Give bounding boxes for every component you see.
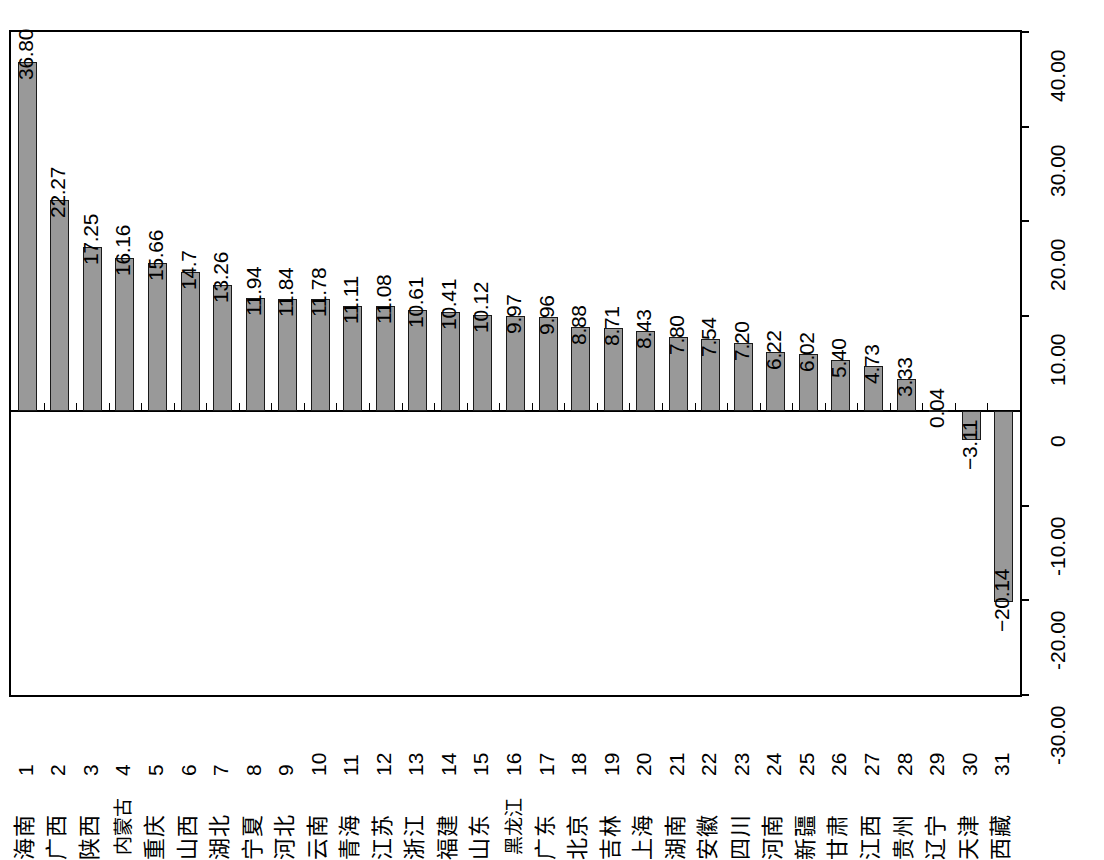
bar-value-label: 8.88 — [567, 305, 591, 345]
x-index-label: 2 — [46, 764, 70, 776]
bar-value-label: 10.41 — [437, 279, 461, 330]
x-index-label: 25 — [795, 753, 819, 776]
x-category: 12江苏 — [369, 700, 402, 828]
x-category: 2广西 — [44, 700, 77, 828]
x-category: 1海南 — [11, 700, 44, 828]
x-index-label: 21 — [665, 753, 689, 776]
x-category: 16黑龙江 — [500, 700, 533, 828]
x-category: 18北京 — [565, 700, 598, 828]
x-index-label: 18 — [567, 753, 591, 776]
x-index-label: 10 — [307, 753, 331, 776]
x-category-label: 安徽 — [689, 814, 721, 860]
bar — [181, 272, 200, 411]
x-category-label: 西藏 — [982, 814, 1014, 860]
bar-value-label: 7.20 — [730, 321, 754, 361]
x-category: 19吉林 — [597, 700, 630, 828]
x-index-label: 8 — [242, 764, 266, 776]
bar-value-label: 15.66 — [144, 229, 168, 280]
x-category-label: 辽宁 — [917, 814, 949, 860]
x-tick — [336, 403, 337, 410]
x-category-label: 上海 — [624, 814, 656, 860]
x-index-label: 28 — [893, 753, 917, 776]
x-category-label: 吉林 — [592, 814, 624, 860]
x-tick — [955, 403, 956, 410]
x-category-label: 甘肃 — [819, 814, 851, 860]
x-index-label: 22 — [697, 753, 721, 776]
y-tick — [1020, 505, 1029, 507]
bar-value-label: 9.96 — [535, 295, 559, 335]
x-tick — [890, 403, 891, 410]
x-category: 22安徽 — [695, 700, 728, 828]
x-index-label: 7 — [209, 764, 233, 776]
bar-value-label: 10.61 — [404, 277, 428, 328]
x-tick — [44, 403, 45, 410]
x-index-label: 19 — [600, 753, 624, 776]
y-tick-label: 40.00 — [1046, 49, 1070, 102]
bar-value-label: 11.11 — [339, 276, 363, 324]
x-category: 3陕西 — [76, 700, 109, 828]
bar-value-label: −20.14 — [990, 569, 1014, 632]
x-category: 7湖北 — [207, 700, 240, 828]
x-tick — [532, 403, 533, 410]
bar — [115, 258, 134, 411]
x-category-label: 重庆 — [136, 814, 168, 860]
bar — [83, 247, 102, 410]
x-index-label: 15 — [469, 753, 493, 776]
bar — [148, 263, 167, 411]
x-tick — [499, 403, 500, 410]
bar-value-label: 6.22 — [762, 330, 786, 370]
x-tick — [987, 403, 988, 410]
x-category: 30天津 — [955, 700, 988, 828]
x-tick — [76, 403, 77, 410]
x-category: 23四川 — [727, 700, 760, 828]
y-tick-label: 30.00 — [1046, 144, 1070, 197]
y-tick — [1020, 694, 1029, 696]
x-category: 27江西 — [858, 700, 891, 828]
x-category: 31西藏 — [988, 700, 1021, 828]
x-index-label: 14 — [437, 753, 461, 776]
x-index-label: 9 — [274, 764, 298, 776]
y-tick-label: -30.00 — [1046, 705, 1070, 765]
x-category-label: 江西 — [852, 814, 884, 860]
y-tick — [1020, 126, 1029, 128]
x-category: 24河南 — [760, 700, 793, 828]
x-category: 26甘肃 — [825, 700, 858, 828]
bar-value-label: 22.27 — [46, 167, 70, 218]
x-category: 5重庆 — [141, 700, 174, 828]
x-tick — [434, 403, 435, 410]
x-index-label: 31 — [990, 753, 1014, 776]
x-category-label: 贵州 — [885, 814, 917, 860]
y-tick — [1020, 220, 1029, 222]
bar-value-label: 7.54 — [697, 318, 721, 358]
x-category: 9河北 — [272, 700, 305, 828]
x-tick — [109, 403, 110, 410]
x-tick — [922, 403, 923, 410]
y-tick-label: 10.00 — [1046, 334, 1070, 387]
x-tick — [564, 403, 565, 410]
x-category-label: 黑龙江 — [499, 798, 526, 855]
x-tick — [857, 403, 858, 410]
x-category-label: 云南 — [299, 814, 331, 860]
x-category: 29辽宁 — [923, 700, 956, 828]
x-category-label: 福建 — [429, 814, 461, 860]
x-index-label: 27 — [860, 753, 884, 776]
bar-value-label: 14.7 — [177, 250, 201, 290]
x-tick — [760, 403, 761, 410]
x-category: 14福建 — [434, 700, 467, 828]
x-category-label: 山西 — [169, 814, 201, 860]
x-tick — [825, 403, 826, 410]
x-category: 25新疆 — [792, 700, 825, 828]
x-index-label: 29 — [925, 753, 949, 776]
x-category: 6山西 — [174, 700, 207, 828]
bar-value-label: 0.04 — [925, 389, 949, 429]
x-index-label: 4 — [111, 764, 135, 776]
x-index-label: 20 — [632, 753, 656, 776]
y-tick-label: -20.00 — [1046, 611, 1070, 671]
x-category-label: 河南 — [754, 814, 786, 860]
x-tick — [402, 403, 403, 410]
bar-value-label: 5.40 — [827, 338, 851, 378]
x-category-label: 陕西 — [71, 814, 103, 860]
x-tick — [695, 403, 696, 410]
x-tick — [206, 403, 207, 410]
